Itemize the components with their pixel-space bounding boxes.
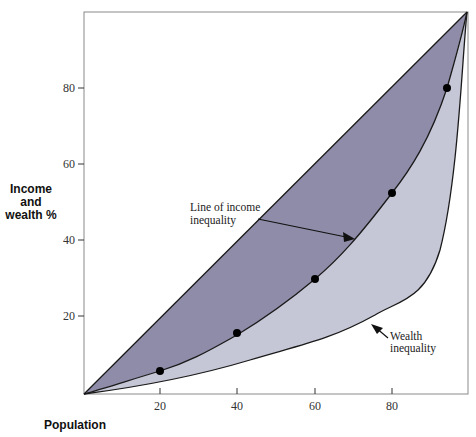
wealth-annotation-line-2: inequality — [390, 342, 436, 355]
data-point — [311, 275, 319, 283]
wealth-annotation-line-1: Wealth — [390, 330, 423, 342]
x-axis — [160, 388, 392, 394]
y-tick-label: 60 — [63, 157, 75, 171]
x-tick-label: 40 — [231, 399, 243, 413]
y-tick-label: 20 — [63, 309, 75, 323]
lorenz-chart: 80 60 40 20 20 40 60 80 Population Incom… — [0, 0, 476, 437]
data-point — [233, 329, 241, 337]
x-axis-title: Population — [44, 418, 106, 432]
y-axis-title-line-3: wealth % — [4, 208, 57, 222]
income-annotation-line-2: inequality — [190, 214, 236, 227]
data-point — [388, 189, 396, 197]
y-tick-label: 80 — [63, 81, 75, 95]
x-tick-label: 20 — [154, 399, 166, 413]
y-tick-label: 40 — [63, 233, 75, 247]
y-axis-title-line-1: Income — [10, 182, 52, 196]
y-axis-title-line-2: and — [20, 195, 41, 209]
x-tick-label: 60 — [309, 399, 321, 413]
data-point — [156, 367, 164, 375]
x-tick-label: 80 — [386, 399, 398, 413]
income-annotation-line-1: Line of income — [190, 201, 260, 213]
data-point — [443, 84, 451, 92]
y-axis — [78, 88, 84, 316]
